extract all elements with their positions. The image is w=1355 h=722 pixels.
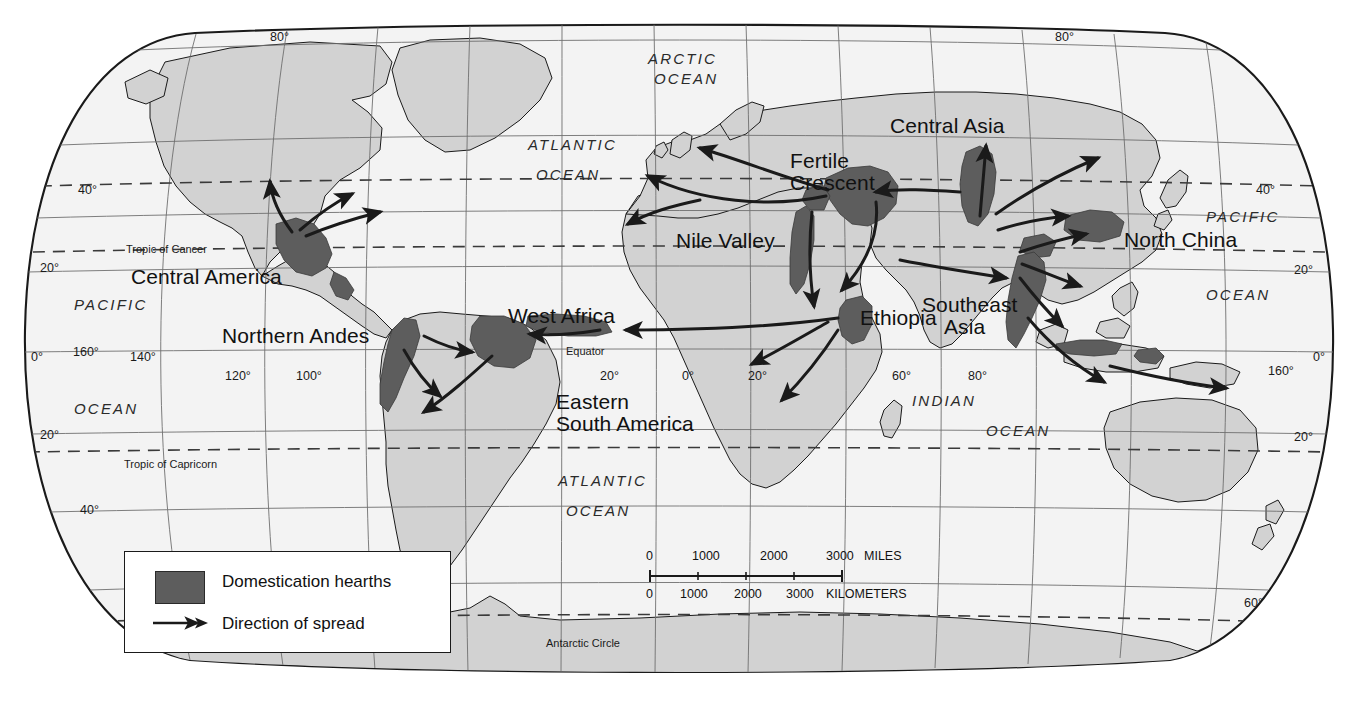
ocean-label-atlantic-n-line2: OCEAN [536, 166, 600, 183]
region-label-north-china: North China [1124, 229, 1237, 250]
region-label-fertile-crescent-line2: Crescent [790, 172, 875, 193]
region-label-northern-andes: Northern Andes [222, 325, 369, 346]
ocean-label-pacific-line1: PACIFIC [74, 296, 147, 313]
scale-miles-tick-1000: 1000 [692, 549, 720, 563]
legend-hearth-swatch [155, 571, 205, 604]
lon-label-20e: 20° [748, 369, 767, 383]
lat-label-20s-left: 20° [40, 428, 59, 442]
ocean-label-pacific-e-line1: PACIFIC [1206, 208, 1279, 225]
lat-label-0-right: 0° [1313, 350, 1325, 364]
lon-label-100w: 100° [296, 369, 322, 383]
scale-miles-tick-3000: 3000 [826, 549, 854, 563]
lon-label-120w: 120° [225, 369, 251, 383]
antarctic-circle-label: Antarctic Circle [546, 637, 620, 649]
scale-km-tick-2000: 2000 [734, 587, 762, 601]
ocean-label-atlantic-s-line1: ATLANTIC [558, 472, 647, 489]
lat-label-40-right: 40° [1256, 183, 1275, 197]
ocean-label-atlantic-n-line1: ATLANTIC [528, 136, 617, 153]
lat-label-20n-right: 20° [1294, 263, 1313, 277]
region-label-southeast-asia-line2: Asia [944, 316, 985, 337]
equator-label: Equator [566, 345, 605, 357]
scale-km-unit: KILOMETERS [826, 587, 907, 601]
lon-label-0: 0° [682, 369, 694, 383]
lat-label-0-left: 0° [31, 350, 43, 364]
scale-bar-ruler [646, 569, 886, 583]
lat-label-20n-left: 20° [40, 261, 59, 275]
legend-spread-label: Direction of spread [222, 614, 365, 634]
region-label-fertile-crescent-line1: Fertile [790, 150, 849, 171]
lon-label-80e: 80° [968, 369, 987, 383]
ocean-label-indian-line1: INDIAN [912, 392, 976, 409]
world-map: 80° 40° 20° 0° 20° 40° 80° 40° 20° 0° 20… [0, 0, 1355, 722]
map-legend: Domestication hearths Direction of sprea… [124, 551, 451, 653]
lat-label-80-left: 80° [270, 30, 289, 44]
ocean-label-atlantic-s-line2: OCEAN [566, 502, 630, 519]
lon-label-20w: 20° [600, 369, 619, 383]
scale-km-tick-0: 0 [646, 587, 653, 601]
scale-km-tick-1000: 1000 [680, 587, 708, 601]
lon-label-160w: 160° [73, 345, 99, 359]
lat-label-40s-left: 40° [80, 503, 99, 517]
lat-label-20s-right: 20° [1294, 430, 1313, 444]
lon-label-60e: 60° [892, 369, 911, 383]
tropic-of-cancer-label: Tropic of Cancer [126, 243, 207, 255]
ocean-label-pacific-e-line2: OCEAN [1206, 286, 1270, 303]
ocean-label-indian-line2: OCEAN [986, 422, 1050, 439]
ocean-label-arctic-line1: ARCTIC [648, 50, 717, 67]
scale-miles-tick-2000: 2000 [760, 549, 788, 563]
scale-miles-unit: MILES [864, 549, 902, 563]
tropic-of-capricorn-label: Tropic of Capricorn [124, 458, 217, 470]
region-label-west-africa: West Africa [508, 305, 615, 326]
scale-miles-tick-0: 0 [646, 549, 653, 563]
region-label-central-america: Central America [131, 266, 282, 287]
region-label-nile-valley: Nile Valley [676, 230, 775, 251]
region-label-eastern-south-america-line2: South America [556, 413, 694, 434]
legend-hearth-label: Domestication hearths [222, 572, 391, 592]
legend-arrow-icon [151, 616, 209, 630]
ocean-label-arctic-line2: OCEAN [654, 70, 718, 87]
lon-label-140w: 140° [130, 350, 156, 364]
ocean-label-pacific-line2: OCEAN [74, 400, 138, 417]
region-label-eastern-south-america-line1: Eastern [556, 391, 629, 412]
lat-label-40-left: 40° [78, 183, 97, 197]
lat-label-60s-right: 60° [1244, 596, 1263, 610]
lat-label-80-right: 80° [1055, 30, 1074, 44]
region-label-central-asia: Central Asia [890, 115, 1004, 136]
scale-km-tick-3000: 3000 [786, 587, 814, 601]
scale-bar: 0 1000 2000 3000 MILES 0 1000 2000 3000 … [646, 549, 886, 611]
region-label-southeast-asia-line1: Southeast [922, 294, 1017, 315]
lon-label-160e: 160° [1268, 364, 1294, 378]
